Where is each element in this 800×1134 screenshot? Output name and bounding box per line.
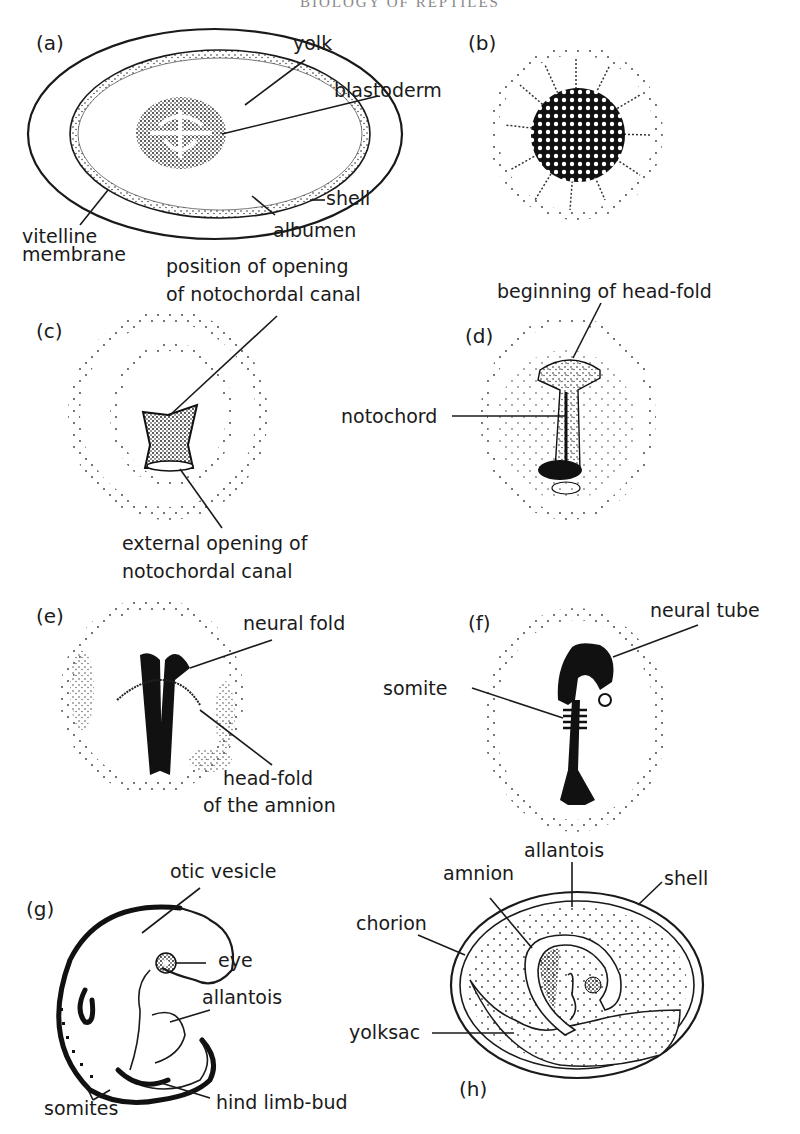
- label-allantois-g: allantois: [202, 986, 282, 1008]
- panel-f: (f) somite neural tube: [383, 599, 760, 832]
- label-yolk: yolk: [293, 32, 332, 54]
- panel-h-label: (h): [459, 1077, 487, 1101]
- label-amnion: amnion: [443, 862, 514, 884]
- panel-c: position of opening of notochordal canal…: [36, 255, 361, 582]
- label-position-opening-1: position of opening: [166, 255, 348, 277]
- label-albumen: albumen: [273, 219, 356, 241]
- forelimb-bud: [80, 990, 93, 1022]
- label-position-opening-2: of notochordal canal: [166, 283, 361, 305]
- panel-b: (b): [468, 31, 663, 220]
- label-somites: somites: [44, 1097, 118, 1119]
- cleaving-cell-mass: [531, 88, 625, 182]
- panel-d-label: (d): [465, 324, 493, 348]
- panel-e: (e) neural fold head-fold of the amnion: [36, 598, 345, 816]
- label-headfold-amnion-1: head-fold: [223, 767, 313, 789]
- allantois-sac: [152, 1013, 185, 1064]
- label-otic-vesicle: otic vesicle: [170, 860, 276, 882]
- label-vitelline-2: membrane: [22, 243, 126, 265]
- label-allantois-h: allantois: [524, 839, 604, 861]
- panel-c-label: (c): [36, 319, 63, 343]
- label-neural-tube: neural tube: [650, 599, 760, 621]
- label-notochord: notochord: [341, 405, 437, 427]
- primitive-knot: [538, 460, 582, 480]
- label-shell-h: shell: [664, 867, 708, 889]
- label-beginning-headfold: beginning of head-fold: [497, 280, 712, 302]
- label-eye: eye: [218, 949, 253, 971]
- label-neural-fold: neural fold: [243, 612, 345, 634]
- panel-f-label: (f): [468, 611, 491, 635]
- embryo-development-figure: (a) yolk blastoderm shell albumen vitell…: [0, 0, 800, 1134]
- label-yolksac: yolksac: [349, 1021, 420, 1043]
- panel-e-label: (e): [36, 604, 64, 628]
- panel-g-label: (g): [26, 897, 54, 921]
- label-headfold-amnion-2: of the amnion: [203, 794, 336, 816]
- panel-a: (a) yolk blastoderm shell albumen vitell…: [22, 29, 442, 265]
- label-external-opening-2: notochordal canal: [122, 560, 292, 582]
- embryo-ventral-line: [130, 970, 150, 1070]
- label-somite: somite: [383, 677, 447, 699]
- label-chorion: chorion: [356, 912, 427, 934]
- somite-marks: [60, 1008, 93, 1078]
- label-shell: shell: [326, 187, 370, 209]
- label-blastoderm: blastoderm: [334, 79, 442, 101]
- panel-d: beginning of head-fold (d) notochord: [341, 280, 712, 520]
- label-hind-limb-bud: hind limb-bud: [216, 1091, 348, 1113]
- panel-b-label: (b): [468, 31, 496, 55]
- label-external-opening-1: external opening of: [122, 532, 309, 554]
- panel-h: allantois amnion shell chorion yolksac (…: [349, 839, 708, 1101]
- panel-g: (g) otic vesicle eye allantois hind limb…: [26, 860, 348, 1119]
- panel-a-label: (a): [36, 31, 64, 55]
- embryo-head: [162, 908, 233, 983]
- embryo-eye-h: [585, 977, 601, 993]
